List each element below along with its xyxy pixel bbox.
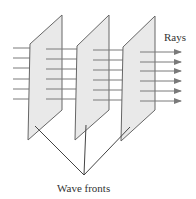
incoming-rays — [13, 48, 30, 99]
wave-front-plane-3 — [121, 16, 155, 141]
rays-label: Rays — [164, 31, 186, 43]
wave-front-plane-2 — [75, 15, 109, 140]
wave-front-plane-1 — [28, 15, 62, 140]
wave-fronts-label: Wave fronts — [57, 182, 110, 194]
diagram-graphic — [0, 0, 196, 199]
wave-fronts-diagram: Rays Wave fronts — [0, 0, 196, 199]
